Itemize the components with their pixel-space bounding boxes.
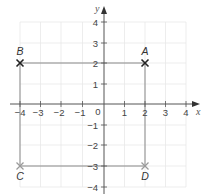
point-b-label: B bbox=[16, 45, 23, 57]
point-c: C bbox=[16, 163, 24, 183]
x-tick-labels: −4 −3 −2 −1 1 2 3 4 bbox=[15, 107, 189, 118]
origin-label: 0 bbox=[95, 106, 100, 117]
x-tick-label: 2 bbox=[142, 107, 147, 118]
y-tick-label: −2 bbox=[87, 140, 98, 151]
point-c-label: C bbox=[16, 170, 24, 182]
point-d: D bbox=[141, 163, 149, 183]
y-axis-arrow-icon bbox=[101, 6, 107, 14]
y-tick-label: 1 bbox=[93, 79, 98, 90]
x-tick-label: 1 bbox=[122, 107, 127, 118]
y-tick-label: −3 bbox=[87, 161, 98, 172]
y-tick-label: 3 bbox=[93, 38, 98, 49]
point-a-label: A bbox=[140, 45, 148, 57]
x-tick-label: −4 bbox=[15, 107, 26, 118]
y-axis bbox=[101, 6, 107, 194]
y-tick-label: 4 bbox=[93, 17, 98, 28]
y-tick-label: −4 bbox=[87, 182, 98, 193]
y-tick-label: 2 bbox=[93, 58, 98, 69]
x-tick-label: 3 bbox=[163, 107, 168, 118]
y-tick-label: −1 bbox=[87, 120, 98, 131]
x-tick-label: −3 bbox=[33, 107, 44, 118]
y-axis-label: y bbox=[94, 3, 100, 14]
x-tick-label: 4 bbox=[183, 107, 188, 118]
x-tick-label: −2 bbox=[54, 107, 65, 118]
point-d-label: D bbox=[141, 170, 149, 182]
x-axis-label: x bbox=[195, 106, 201, 117]
x-tick-label: −1 bbox=[75, 107, 86, 118]
coordinate-grid: x y −4 −3 −2 −1 1 2 3 4 0 4 3 2 1 −1 −2 … bbox=[0, 0, 206, 196]
